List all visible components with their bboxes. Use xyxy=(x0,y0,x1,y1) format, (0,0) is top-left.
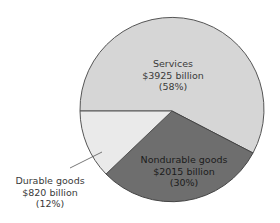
nondurable-value: $2015 billion xyxy=(141,166,228,178)
services-value: $3925 billion xyxy=(142,70,204,82)
nondurable-name: Nondurable goods xyxy=(141,154,228,166)
services-percent: (58%) xyxy=(142,81,204,93)
label-nondurable-goods: Nondurable goods $2015 billion (30%) xyxy=(141,154,228,189)
nondurable-percent: (30%) xyxy=(141,177,228,189)
durable-name: Durable goods xyxy=(15,175,84,187)
durable-value: $820 billion xyxy=(15,187,84,199)
label-durable-goods: Durable goods $820 billion (12%) xyxy=(15,175,84,210)
services-name: Services xyxy=(142,58,204,70)
durable-percent: (12%) xyxy=(15,198,84,210)
label-services: Services $3925 billion (58%) xyxy=(142,58,204,93)
